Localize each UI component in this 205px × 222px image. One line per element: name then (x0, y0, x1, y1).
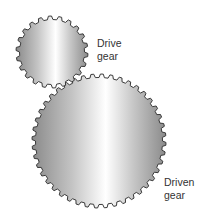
driven-gear-label-line1: Driven (164, 176, 194, 189)
driven-gear-label: Driven gear (164, 176, 194, 202)
drive-gear-label-line2: gear (97, 50, 122, 63)
drive-gear-label-line1: Drive (97, 37, 122, 50)
gear-diagram: Drive gear Driven gear (0, 0, 205, 222)
drive-gear-label: Drive gear (97, 37, 122, 63)
driven-gear-label-line2: gear (164, 189, 194, 202)
drive-gear (16, 16, 88, 88)
driven-gear (32, 74, 166, 208)
